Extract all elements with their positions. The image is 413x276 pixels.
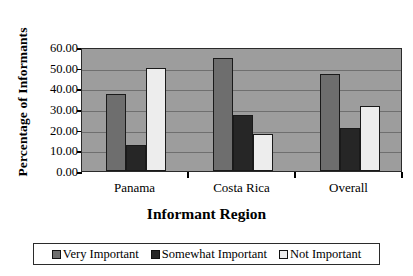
x-axis-tick-label: Panama bbox=[81, 180, 188, 196]
x-axis-tick-label: Costa Rica bbox=[188, 180, 295, 196]
bar bbox=[233, 115, 253, 171]
y-axis-tick-label: 50.00 bbox=[20, 63, 78, 75]
legend-swatch-icon bbox=[151, 250, 160, 259]
bar bbox=[126, 145, 146, 171]
x-axis-tick-labels: PanamaCosta RicaOverall bbox=[81, 180, 402, 198]
x-axis-tick-marks bbox=[81, 172, 402, 179]
y-axis-tick-label: 60.00 bbox=[20, 42, 78, 54]
legend-label: Very Important bbox=[63, 248, 139, 261]
chart-legend: Very ImportantSomewhat ImportantNot Impo… bbox=[33, 243, 380, 265]
y-axis-tick-label: 40.00 bbox=[20, 83, 78, 95]
bar bbox=[106, 94, 126, 172]
legend-label: Somewhat Important bbox=[162, 248, 267, 261]
bar bbox=[146, 68, 166, 171]
legend-label: Not Important bbox=[290, 248, 361, 261]
y-axis-tick-labels: 0.0010.0020.0030.0040.0050.0060.00 bbox=[20, 43, 78, 177]
y-axis-tick-label: 30.00 bbox=[20, 104, 78, 116]
x-axis-tick-mark bbox=[401, 172, 403, 178]
x-axis-tick-label: Overall bbox=[295, 180, 402, 196]
y-axis-tick-label: 0.00 bbox=[20, 166, 78, 178]
x-axis-tick-mark bbox=[294, 172, 296, 178]
y-axis-tick-label: 20.00 bbox=[20, 125, 78, 137]
legend-item[interactable]: Very Important bbox=[52, 248, 139, 261]
x-axis-title: Informant Region bbox=[0, 205, 413, 223]
plot-area bbox=[81, 48, 402, 172]
bar bbox=[213, 58, 233, 171]
bar bbox=[320, 74, 340, 171]
legend-swatch-icon bbox=[279, 250, 288, 259]
x-axis-tick-mark bbox=[187, 172, 189, 178]
legend-swatch-icon bbox=[52, 250, 61, 259]
y-axis-tick-label: 10.00 bbox=[20, 145, 78, 157]
bar bbox=[253, 134, 273, 171]
legend-item[interactable]: Not Important bbox=[279, 248, 361, 261]
bar-chart-figure: Percentage of Informants 0.0010.0020.003… bbox=[0, 0, 413, 276]
bar bbox=[340, 128, 360, 171]
bar bbox=[360, 106, 380, 171]
legend-item[interactable]: Somewhat Important bbox=[151, 248, 267, 261]
bar-series-container bbox=[82, 49, 401, 171]
